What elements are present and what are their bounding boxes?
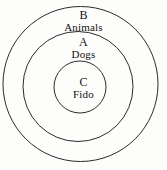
middle-circle-label-group: A Dogs [0,36,167,60]
middle-circle-name: Dogs [0,49,167,60]
middle-circle-letter: A [0,36,167,48]
nested-circles-diagram: B Animals A Dogs C Fido [0,0,167,170]
inner-circle-letter: C [0,76,167,88]
inner-circle-name: Fido [0,89,167,100]
outer-circle-letter: B [0,9,167,21]
outer-circle-label-group: B Animals [0,9,167,33]
outer-circle-name: Animals [0,22,167,33]
inner-circle-label-group: C Fido [0,76,167,100]
